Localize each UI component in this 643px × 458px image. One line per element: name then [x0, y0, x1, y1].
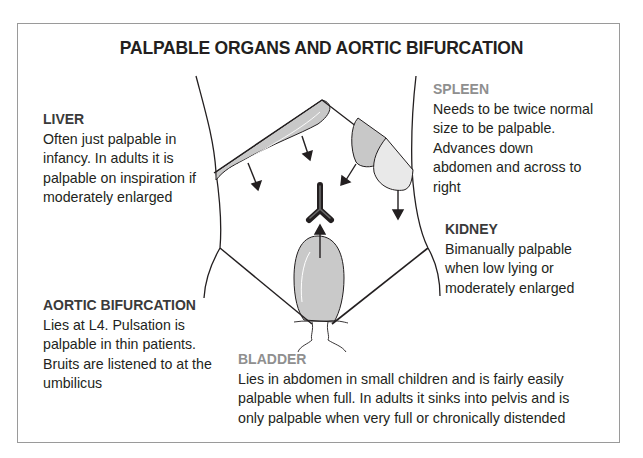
arrow-down-icon [302, 136, 312, 160]
label-bladder-text: Lies in abdomen in small children and is… [238, 370, 569, 429]
label-spleen-text: Needs to be twice normal size to be palp… [433, 100, 593, 198]
label-spleen: SPLEEN Needs to be twice normal size to … [433, 80, 593, 197]
label-spleen-heading: SPLEEN [433, 80, 593, 100]
label-kidney: KIDNEY Bimanually palpable when low lyin… [445, 220, 574, 298]
aortic-bifurcation-icon [309, 185, 331, 220]
pelvic-line-right [332, 248, 428, 324]
label-aortic-bifurcation-heading: AORTIC BIFURCATION [43, 296, 212, 316]
label-kidney-text: Bimanually palpable when low lying or mo… [445, 240, 574, 299]
arrow-down-left-icon [341, 164, 356, 185]
perineum-lines [294, 321, 348, 352]
label-bladder-heading: BLADDER [238, 350, 569, 370]
arrow-down-icon [248, 163, 261, 190]
body-outline-left [196, 76, 221, 298]
label-aortic-bifurcation-text: Lies at L4. Pulsation is palpable in thi… [43, 316, 212, 394]
label-liver-text: Often just palpable in infancy. In adult… [43, 130, 196, 208]
label-liver: LIVER Often just palpable in infancy. In… [43, 110, 196, 208]
label-aortic-bifurcation: AORTIC BIFURCATION Lies at L4. Pulsation… [43, 296, 212, 394]
arrow-down-icon [393, 190, 403, 219]
label-bladder: BLADDER Lies in abdomen in small childre… [238, 350, 569, 428]
liver-shape [216, 100, 330, 180]
label-liver-heading: LIVER [43, 110, 196, 130]
label-kidney-heading: KIDNEY [445, 220, 574, 240]
